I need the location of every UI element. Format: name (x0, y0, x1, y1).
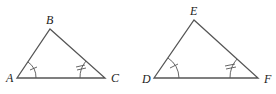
vertex-label-f: F (263, 72, 272, 86)
diagram-canvas: A B C D E F (0, 0, 276, 94)
triangle-abc: A B C (5, 13, 120, 85)
angle-f-arc (230, 59, 237, 78)
angle-d-arc (168, 58, 179, 78)
angle-a-arc (28, 62, 36, 78)
triangle-abc-outline (17, 29, 105, 78)
triangle-def-outline (154, 20, 258, 78)
angle-c-tick-1 (76, 65, 85, 67)
vertex-label-b: B (46, 13, 54, 27)
vertex-label-e: E (189, 4, 198, 18)
angle-f-tick-1 (225, 64, 235, 66)
vertex-label-d: D (141, 72, 151, 86)
triangle-def: D E F (141, 4, 272, 86)
similar-triangles-diagram: A B C D E F (0, 0, 276, 94)
vertex-label-c: C (111, 71, 120, 85)
vertex-label-a: A (5, 71, 14, 85)
